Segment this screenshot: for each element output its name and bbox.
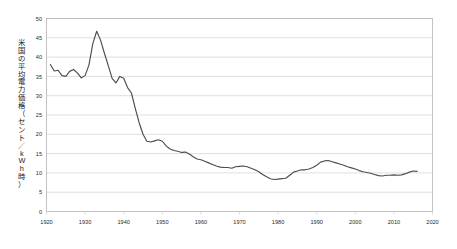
x-tick-label: 1980: [272, 219, 284, 225]
x-tick-label: 2000: [349, 219, 361, 225]
y-tick-label: 5: [39, 189, 42, 195]
data-series-line: [50, 31, 417, 179]
y-tick-label: 15: [36, 151, 42, 157]
x-tick-label: 1990: [310, 219, 322, 225]
y-axis-label: 米国の平均電力価格（セント／kWh時）: [18, 38, 26, 189]
y-axis-title: 米国の平均電力価格（セント／kWh時）: [18, 38, 26, 189]
y-tick-label: 45: [36, 35, 42, 41]
y-tick-labels: 05101520253035404550: [36, 16, 42, 215]
x-tick-label: 1960: [195, 219, 207, 225]
y-tick-label: 20: [36, 131, 42, 137]
y-tick-label: 30: [36, 93, 42, 99]
x-tick-label: 1920: [40, 219, 52, 225]
y-tick-label: 35: [36, 74, 42, 80]
x-tick-label: 2010: [388, 219, 400, 225]
x-tick-label: 1930: [79, 219, 91, 225]
y-tick-label: 10: [36, 170, 42, 176]
chart-container: 05101520253035404550 1920193019401950196…: [0, 0, 457, 249]
line-chart: 05101520253035404550 1920193019401950196…: [0, 0, 457, 249]
x-tick-label: 1970: [233, 219, 245, 225]
x-tick-label: 1940: [117, 219, 129, 225]
x-tick-labels: 1920193019401950196019701980199020002010…: [40, 212, 438, 225]
y-tick-label: 50: [36, 16, 42, 22]
y-tick-label: 0: [39, 209, 42, 215]
x-tick-label: 2020: [426, 219, 438, 225]
y-tick-label: 40: [36, 54, 42, 60]
x-tick-label: 1950: [156, 219, 168, 225]
y-tick-label: 25: [36, 112, 42, 118]
